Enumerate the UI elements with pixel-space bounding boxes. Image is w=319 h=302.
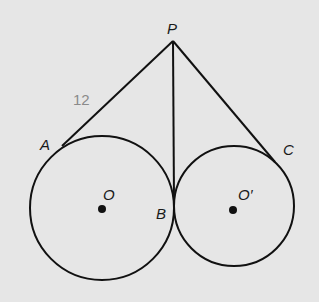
segment-pc <box>173 41 275 162</box>
label-b: B <box>156 205 166 222</box>
length-label-pa: 12 <box>73 91 90 108</box>
geometry-figure: P A C B O O′ 12 <box>0 0 319 302</box>
label-a: A <box>39 136 50 153</box>
label-o: O <box>103 186 115 203</box>
diagram-canvas: P A C B O O′ 12 <box>0 0 319 302</box>
center-dot-o-prime <box>229 206 237 214</box>
label-c: C <box>283 141 294 158</box>
circle-o-prime <box>174 146 294 266</box>
center-dot-o <box>98 205 106 213</box>
segment-pb <box>173 41 174 201</box>
label-p: P <box>167 20 177 37</box>
label-o-prime: O′ <box>238 186 254 203</box>
